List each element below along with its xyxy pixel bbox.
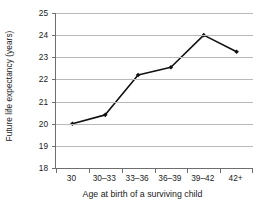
- gridline: [56, 35, 253, 36]
- x-axis-title: Age at birth of a surviving child: [20, 189, 265, 199]
- x-tick-label: 42+: [229, 173, 243, 183]
- y-tick-mark: [52, 146, 56, 147]
- gridline: [56, 146, 253, 147]
- gridline: [56, 124, 253, 125]
- plot-area: [55, 13, 253, 169]
- y-tick-mark: [52, 57, 56, 58]
- y-tick-label: 20: [39, 119, 48, 129]
- x-tick-label: 39–42: [191, 173, 214, 183]
- plot-inner: [56, 13, 253, 168]
- x-axis-tick-labels: 3030–3333–3636–3939–4242+: [55, 173, 252, 187]
- y-tick-mark: [52, 13, 56, 14]
- y-tick-label: 23: [39, 52, 48, 62]
- y-axis-title: Future life expectancy (years): [0, 0, 18, 172]
- y-tick-mark: [52, 102, 56, 103]
- data-series-line: [56, 13, 253, 168]
- x-tick-label: 33–36: [126, 173, 149, 183]
- y-tick-label: 21: [39, 97, 48, 107]
- gridline: [56, 102, 253, 103]
- y-tick-mark: [52, 79, 56, 80]
- x-tick-label: 30: [67, 173, 76, 183]
- x-tick-mark: [252, 169, 253, 173]
- y-tick-label: 18: [39, 163, 48, 173]
- y-tick-label: 25: [39, 8, 48, 18]
- y-tick-mark: [52, 35, 56, 36]
- y-tick-mark: [52, 124, 56, 125]
- gridline: [56, 79, 253, 80]
- line-chart: Future life expectancy (years) 181920212…: [0, 0, 271, 208]
- x-tick-label: 30–33: [93, 173, 116, 183]
- y-axis-title-label: Future life expectancy (years): [4, 31, 14, 142]
- y-tick-label: 24: [39, 30, 48, 40]
- y-axis-tick-labels: 1819202122232425: [20, 13, 52, 168]
- x-tick-label: 36–39: [158, 173, 181, 183]
- gridline: [56, 13, 253, 14]
- y-tick-label: 19: [39, 141, 48, 151]
- gridline: [56, 57, 253, 58]
- y-tick-label: 22: [39, 74, 48, 84]
